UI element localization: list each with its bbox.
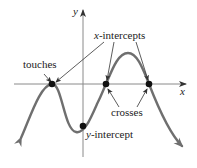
cross-point-1 <box>103 81 110 88</box>
y-axis-label: y <box>72 5 78 17</box>
polynomial-intercepts-diagram: y x x-intercepts touches crosses y-inter… <box>0 0 197 168</box>
y-intercept-label: y-intercept <box>85 128 133 140</box>
crosses-label: crosses <box>111 106 143 118</box>
pointer-x-intercepts-1 <box>56 42 104 82</box>
touches-label: touches <box>23 58 57 70</box>
x-intercepts-label: x-intercepts <box>93 29 145 41</box>
pointer-crosses-2 <box>137 89 147 107</box>
cross-point-2 <box>146 81 153 88</box>
pointer-crosses-1 <box>108 89 119 107</box>
touch-point <box>49 81 56 88</box>
y-intercept-text: -intercept <box>91 128 133 140</box>
pointer-touches <box>44 74 51 82</box>
x-intercepts-text: -intercepts <box>99 29 145 41</box>
x-axis-label: x <box>179 85 185 97</box>
